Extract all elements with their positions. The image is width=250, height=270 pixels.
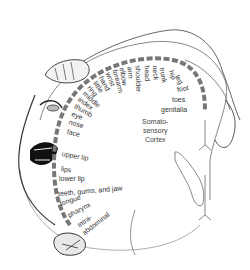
cortex-label: Somato- sensory Cortex [142, 118, 168, 144]
cortex-label-line-2: sensory [142, 127, 168, 136]
sensory-homunculus-diagram: genitaliatoesfootleghiptrunkneckheadshou… [0, 0, 250, 270]
body-part-label: toes [172, 96, 185, 103]
cortex-label-line-3: Cortex [142, 136, 168, 145]
body-part-label: genitalia [161, 106, 187, 113]
body-part-label: arm [127, 66, 135, 79]
diagram-illustration [0, 0, 250, 270]
cortex-label-line-1: Somato- [142, 118, 168, 127]
body-part-label: neck [152, 65, 160, 80]
hand-illustration [45, 60, 89, 83]
body-part-label: shoulder [135, 65, 143, 92]
foot-illustration [215, 100, 235, 148]
body-part-label: head [144, 65, 152, 81]
ventricle-outline [175, 152, 204, 206]
tongue-illustration [54, 233, 86, 255]
body-part-label: lips [61, 165, 72, 173]
neuron-marker-upper [199, 120, 211, 150]
body-part-label: lower lip [59, 175, 85, 182]
axon-line [130, 210, 135, 255]
